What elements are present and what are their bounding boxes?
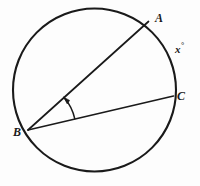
main-circle [13,9,176,172]
chord-ba [28,22,149,131]
geometry-canvas [0,0,200,186]
degree-symbol-icon: ° [181,41,184,50]
chord-bc [28,96,174,130]
angle-variable: x [175,43,181,55]
point-label-c: C [177,90,185,102]
point-label-a: A [155,12,163,24]
point-label-b: B [13,126,21,138]
geometry-diagram: A C B x° [0,0,200,186]
arc-angle-label: x° [175,42,184,55]
